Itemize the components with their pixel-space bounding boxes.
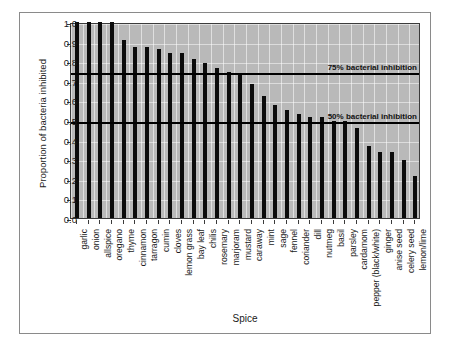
bar [87,22,91,218]
chart-figure: Proportion of bacteria inhibited 75% bac… [19,12,431,334]
x-axis-tick-label: bay leaf [196,226,206,259]
x-axis-tick-mark [216,220,217,224]
y-axis-tick-label: 0.3 [37,155,77,166]
x-axis-tick-label: cinnamon [138,226,148,266]
bar [215,68,219,218]
x-axis-tick-label: marjoram [231,226,241,265]
gridline-vertical [293,24,294,218]
y-axis-tick-label: 0.5 [37,116,77,127]
gridline-vertical [106,24,107,218]
bar [367,146,371,218]
reference-line-label: 50% bacterial inhibition [328,112,417,122]
x-axis-tick-mark [298,220,299,224]
bar [227,72,231,218]
bar [180,53,184,218]
x-axis-tick-label: lemon/lime [418,226,428,271]
x-axis-tick-label: coriander [301,226,311,265]
x-axis-tick-label: sage [278,226,288,248]
x-axis-tick-label: chilis [208,226,218,248]
x-axis-title: Spice [70,313,420,324]
bar [157,49,161,218]
y-axis-tick-label: 0.9 [37,37,77,48]
x-axis-tick-label: pepper (black/white) [371,226,381,306]
x-axis-tick-mark [99,220,100,224]
x-axis-tick-mark [321,220,322,224]
x-axis-tick-label: cloves [173,226,183,253]
gridline-vertical [141,24,142,218]
gridline-vertical [234,24,235,218]
x-axis-tick-labels: garliconionallspiceoreganothymecinnamont… [70,220,420,315]
x-axis-tick-mark [76,220,77,224]
gridline-horizontal [71,24,419,25]
x-axis-tick-mark [123,220,124,224]
x-axis-tick-mark [181,220,182,224]
x-axis-tick-label: garlic [79,226,89,250]
bar [238,73,242,218]
x-axis-tick-label: basil [336,226,346,247]
x-axis-tick-mark [134,220,135,224]
x-axis-tick-mark [146,220,147,224]
gridline-vertical [269,24,270,218]
x-axis-tick-label: parsley [348,226,358,257]
y-axis-tick-label: 0.2 [37,174,77,185]
gridline-vertical [176,24,177,218]
x-axis-tick-mark [111,220,112,224]
bar [98,22,102,218]
x-axis-tick-mark [379,220,380,224]
y-axis-tick-label: 0.1 [37,194,77,205]
reference-line-label: 75% bacterial inhibition [328,63,417,73]
x-axis-tick-label: tarragon [149,226,159,261]
gridline-vertical [304,24,305,218]
x-axis-tick-mark [368,220,369,224]
gridline-vertical [164,24,165,218]
bar [355,128,359,218]
bar [168,53,172,218]
gridline-vertical [153,24,154,218]
bar [110,22,114,218]
x-axis-tick-label: thyme [126,226,136,252]
gridline-vertical [199,24,200,218]
reference-line [71,73,419,75]
bar [343,121,347,218]
x-axis-tick-mark [239,220,240,224]
bar [285,110,289,218]
bar [402,160,406,218]
y-axis-tick-label: 0.8 [37,57,77,68]
x-axis-tick-mark [88,220,89,224]
x-axis-tick-label: cumin [161,226,171,252]
gridline-vertical [118,24,119,218]
gridline-vertical [421,24,422,218]
x-axis-tick-label: mint [266,226,276,245]
bar [378,152,382,218]
y-axis-tick-label: 0.6 [37,96,77,107]
bar [308,117,312,218]
x-axis-tick-mark [356,220,357,224]
gridline-vertical [94,24,95,218]
x-axis-tick-label: rosemary [219,226,229,265]
x-axis-tick-label: celery seed [406,226,416,273]
gridline-vertical [246,24,247,218]
x-axis-tick-label: dill [313,226,323,240]
x-axis-tick-label: fennel [289,226,299,252]
x-axis-tick-label: lemon grass [184,226,194,276]
x-axis-tick-mark [309,220,310,224]
x-axis-tick-mark [403,220,404,224]
x-axis-tick-mark [333,220,334,224]
x-axis-tick-label: cardamom [359,226,369,270]
gridline-vertical [281,24,282,218]
x-axis-tick-mark [193,220,194,224]
x-axis-tick-mark [169,220,170,224]
gridline-vertical [316,24,317,218]
x-axis-tick-mark [158,220,159,224]
gridline-vertical [258,24,259,218]
x-axis-tick-label: allspice [103,226,113,258]
x-axis-tick-mark [263,220,264,224]
x-axis-tick-label: ginger [383,226,393,253]
x-axis-tick-mark [286,220,287,224]
x-axis-tick-label: anise seed [394,226,404,271]
x-axis-tick-mark [204,220,205,224]
x-axis-tick-label: nutmeg [324,226,334,258]
bar [297,114,301,218]
x-axis-tick-label: oregano [114,226,124,261]
x-axis-tick-mark [414,220,415,224]
